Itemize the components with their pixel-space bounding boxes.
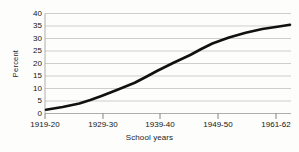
x-tick-label-1961-62: 1961-62 xyxy=(261,121,290,129)
x-axis-title: School years xyxy=(0,133,299,142)
gridlines xyxy=(45,14,291,102)
chart-plot-area xyxy=(0,0,299,152)
chart-container: Percent 40 35 30 25 20 15 10 5 0 1919-2 xyxy=(0,0,299,152)
x-tick-label-1939-40: 1939-40 xyxy=(145,121,174,129)
x-tick-label-1949-50: 1949-50 xyxy=(203,121,232,129)
x-axis-ticks xyxy=(45,114,276,120)
x-tick-label-1929-30: 1929-30 xyxy=(88,121,117,129)
x-tick-label-1919-20: 1919-20 xyxy=(30,121,59,129)
data-line-percent xyxy=(46,25,290,110)
